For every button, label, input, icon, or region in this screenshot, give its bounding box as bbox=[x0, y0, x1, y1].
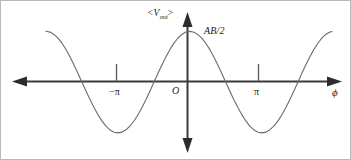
x-axis-left-arrow-icon bbox=[12, 77, 27, 87]
y-axis-label-subscript: out bbox=[160, 13, 168, 20]
y-axis-label-text: <V bbox=[147, 8, 160, 18]
amplitude-label: AB/2 bbox=[204, 26, 225, 36]
origin-label: O bbox=[172, 86, 179, 96]
y-axis-up-arrow-icon bbox=[183, 12, 193, 27]
tick-label-pi: π bbox=[254, 87, 259, 97]
x-axis-label: ϕ bbox=[332, 87, 338, 98]
tick-label-neg-pi: −π bbox=[109, 87, 120, 97]
y-axis-down-arrow-icon bbox=[183, 138, 193, 153]
y-axis-label: <Vout> bbox=[147, 9, 173, 20]
x-axis-right-arrow-icon bbox=[327, 77, 342, 87]
y-axis-label-close: > bbox=[168, 8, 174, 18]
plot-canvas bbox=[1, 1, 351, 160]
cosine-plot-figure: <Vout> AB/2 −π O π ϕ bbox=[0, 0, 351, 160]
